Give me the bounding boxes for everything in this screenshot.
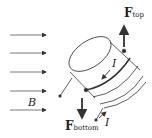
force-bottom-label: Fbottom [65,119,99,133]
current-label-bottom: I [105,116,109,129]
current-label-top: I [112,57,116,70]
force-top-label: Ftop [124,6,144,20]
diagram-canvas [0,0,152,138]
coil [59,30,146,122]
field-label: B [28,96,36,109]
